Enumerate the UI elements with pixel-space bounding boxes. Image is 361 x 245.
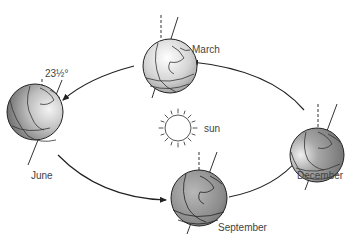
label-tilt-angle: 23½°: [45, 69, 68, 79]
earth-march: [143, 15, 197, 98]
arrow-september-to-december: [229, 158, 299, 197]
earth-june: [7, 79, 63, 165]
label-june: June: [31, 171, 53, 181]
seasons-diagram: [0, 0, 361, 245]
label-december: December: [297, 171, 343, 181]
arrow-june-to-september: [58, 155, 166, 200]
label-sun: sun: [204, 124, 220, 134]
arrow-march-to-june: [63, 66, 134, 100]
arrow-december-to-march: [192, 62, 304, 110]
label-september: September: [218, 223, 267, 233]
label-march: March: [192, 45, 220, 55]
sun-icon: [159, 109, 197, 147]
